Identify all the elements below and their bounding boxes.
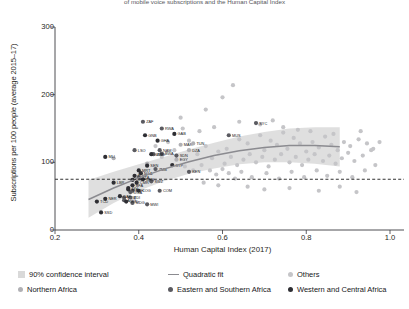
data-point: [361, 153, 365, 157]
data-point: [145, 202, 149, 206]
point-label: TUN: [196, 141, 204, 146]
legend-item[interactable]: 90% confidence interval: [18, 270, 109, 279]
data-point: [262, 148, 266, 152]
point-label: MLI: [108, 154, 115, 159]
data-point: [306, 158, 310, 162]
legend-dot-icon: [288, 272, 293, 277]
data-point: [237, 120, 241, 124]
data-point: [99, 210, 103, 214]
data-point: [227, 133, 231, 137]
data-point: [216, 183, 220, 187]
data-point: [359, 129, 363, 133]
data-point: [231, 83, 235, 87]
data-point: [126, 187, 130, 191]
data-point: [317, 189, 321, 193]
data-point: [103, 197, 107, 201]
data-point: [229, 155, 233, 159]
data-point: [187, 148, 191, 152]
data-point: [346, 151, 350, 155]
data-point: [216, 149, 220, 153]
point-label: SEN: [150, 163, 158, 168]
point-label: SSD: [104, 210, 112, 215]
data-point: [153, 144, 157, 148]
data-point: [179, 116, 183, 120]
point-label: GAB: [178, 131, 187, 136]
data-point: [195, 152, 199, 156]
data-point: [172, 132, 176, 136]
data-point: [197, 129, 201, 133]
data-point: [338, 185, 342, 189]
data-point: [214, 172, 218, 176]
data-point: [289, 170, 293, 174]
data-point: [95, 199, 99, 203]
data-point: [199, 163, 203, 167]
point-label: COG: [142, 188, 151, 193]
legend-item[interactable]: Quadratic fit: [168, 270, 223, 279]
data-point: [220, 167, 224, 171]
data-point: [287, 160, 291, 164]
legend-label: Others: [297, 270, 320, 279]
point-label: KEN: [192, 169, 200, 174]
point-label: GMB: [155, 152, 164, 157]
confidence-band: [89, 127, 340, 218]
data-point: [269, 139, 273, 143]
data-point: [225, 147, 229, 151]
point-label: ZAF: [146, 119, 154, 124]
data-point: [241, 158, 245, 162]
data-point: [191, 141, 195, 145]
data-point: [323, 135, 327, 139]
point-label: GNB: [148, 133, 157, 138]
data-point: [239, 170, 243, 174]
data-point: [227, 171, 231, 175]
data-point: [155, 139, 159, 143]
data-point: [279, 152, 283, 156]
data-point: [132, 148, 136, 152]
data-point: [369, 148, 373, 152]
legend-item[interactable]: Eastern and Southern Africa: [168, 285, 271, 294]
data-point: [179, 143, 183, 147]
data-point: [204, 107, 208, 111]
data-point: [264, 171, 268, 175]
data-point: [285, 147, 289, 151]
point-label: NER: [108, 196, 116, 201]
data-point: [342, 140, 346, 144]
point-label: DZA: [192, 148, 200, 153]
data-point: [300, 163, 304, 167]
figure-container: of mobile voice subscriptions and the Hu…: [0, 0, 409, 309]
point-label: GHA: [161, 138, 170, 143]
point-label: SDN: [180, 153, 188, 158]
data-point: [112, 181, 116, 185]
legend-item[interactable]: Northern Africa: [18, 285, 77, 294]
point-label: COM: [163, 188, 172, 193]
data-point: [310, 140, 314, 144]
data-point: [327, 153, 331, 157]
data-point: [246, 141, 250, 145]
data-point: [137, 168, 141, 172]
data-point: [354, 190, 358, 194]
data-point: [266, 164, 270, 168]
data-point: [373, 163, 377, 167]
data-point: [336, 148, 340, 152]
data-point: [258, 133, 262, 137]
legend-item[interactable]: Others: [288, 270, 320, 279]
data-point: [333, 162, 337, 166]
data-point: [325, 174, 329, 178]
legend-label: Quadratic fit: [183, 270, 223, 279]
data-point: [331, 132, 335, 136]
data-point: [174, 153, 178, 157]
legend-item[interactable]: Western and Central Africa: [288, 285, 387, 294]
data-point: [233, 176, 237, 180]
chart-legend: 90% confidence intervalQuadratic fitOthe…: [0, 268, 409, 308]
data-point: [356, 137, 360, 141]
data-point: [202, 181, 206, 185]
data-point: [308, 129, 312, 133]
data-point: [149, 152, 153, 156]
point-label: RWA: [165, 126, 174, 131]
data-point: [143, 133, 147, 137]
legend-label: 90% confidence interval: [29, 270, 109, 279]
legend-label: Northern Africa: [27, 285, 77, 294]
data-point: [212, 125, 216, 129]
point-label: SYC: [259, 121, 267, 126]
point-label: MRT: [142, 168, 151, 173]
data-point: [363, 168, 367, 172]
